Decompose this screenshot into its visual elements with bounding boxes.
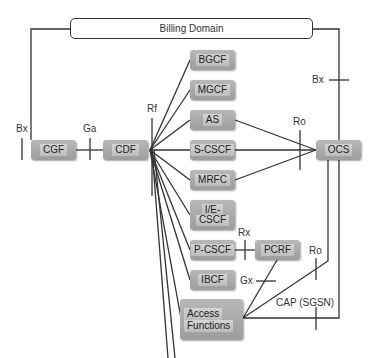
interface-cap-sgsn: CAP (SGSN) (276, 298, 334, 308)
node-bgcf-label: BGCF (196, 54, 230, 66)
interface-rf: Rf (147, 104, 157, 114)
node-ocs-label: OCS (325, 144, 353, 156)
node-pcscf-label: P-CSCF (191, 244, 234, 256)
node-pcscf: P-CSCF (190, 240, 235, 260)
node-cdf: CDF (103, 140, 148, 160)
node-mrfc-label: MRFC (195, 174, 230, 186)
interface-rx: Rx (238, 228, 250, 238)
interface-ro-top: Ro (293, 117, 306, 127)
node-as-label: AS (203, 114, 222, 126)
node-access-functions: Access Functions (180, 299, 243, 340)
interface-gx: Gx (240, 276, 253, 286)
node-scscf: S-CSCF (190, 140, 235, 160)
node-iecscf: I/E- CSCF (190, 200, 235, 230)
node-mrfc: MRFC (190, 170, 235, 190)
node-cdf-label: CDF (112, 144, 139, 156)
billing-domain-box: Billing Domain (70, 18, 313, 39)
node-as: AS (190, 110, 235, 130)
node-pcrf: PCRF (255, 240, 300, 260)
node-scscf-label: S-CSCF (191, 144, 234, 156)
node-cgf: CGF (31, 140, 76, 160)
node-pcrf-label: PCRF (261, 244, 294, 256)
node-access-label-2: Functions (184, 320, 233, 332)
node-mgcf: MGCF (190, 80, 235, 100)
node-bgcf: BGCF (190, 50, 235, 70)
node-iecscf-label-2: CSCF (196, 215, 229, 226)
interface-bx-left: Bx (16, 124, 28, 134)
interface-bx-right: Bx (312, 75, 324, 85)
node-access-label-1: Access (184, 308, 222, 320)
interface-ga: Ga (83, 124, 96, 134)
node-ibcf-label: IBCF (198, 274, 227, 286)
billing-domain-label: Billing Domain (160, 23, 224, 34)
interface-ro-bottom: Ro (309, 246, 322, 256)
node-ibcf: IBCF (190, 270, 235, 290)
node-ocs: OCS (316, 140, 361, 160)
node-mgcf-label: MGCF (195, 84, 230, 96)
node-cgf-label: CGF (40, 144, 67, 156)
